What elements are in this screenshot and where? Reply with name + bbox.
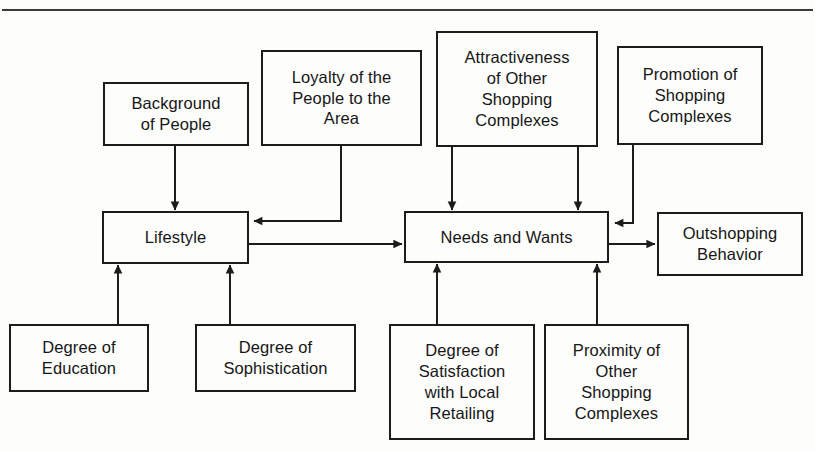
node-loyalty[interactable]: Loyalty of the People to the Area <box>261 50 422 146</box>
node-promotion[interactable]: Promotion of Shopping Complexes <box>617 46 763 145</box>
node-needs-and-wants-label: Needs and Wants <box>440 227 572 248</box>
node-background-of-people-label: Background of People <box>131 93 220 135</box>
node-loyalty-label: Loyalty of the People to the Area <box>292 67 392 129</box>
edge-promotion-to-needs <box>615 144 633 223</box>
edge-loyalty-to-lifestyle <box>254 145 341 221</box>
node-degree-of-satisfaction[interactable]: Degree of Satisfaction with Local Retail… <box>389 324 535 440</box>
node-degree-of-education[interactable]: Degree of Education <box>9 324 149 392</box>
node-lifestyle-label: Lifestyle <box>145 227 206 248</box>
node-promotion-label: Promotion of Shopping Complexes <box>643 64 738 126</box>
node-outshopping-behavior[interactable]: Outshopping Behavior <box>657 212 803 276</box>
node-lifestyle[interactable]: Lifestyle <box>102 211 249 264</box>
node-proximity[interactable]: Proximity of Other Shopping Complexes <box>544 324 689 440</box>
node-degree-of-sophistication-label: Degree of Sophistication <box>223 337 327 379</box>
diagram-canvas: Background of People Loyalty of the Peop… <box>0 0 815 452</box>
node-needs-and-wants[interactable]: Needs and Wants <box>404 211 609 263</box>
node-degree-of-sophistication[interactable]: Degree of Sophistication <box>195 324 356 392</box>
node-attractiveness[interactable]: Attractiveness of Other Shopping Complex… <box>436 31 598 147</box>
node-degree-of-satisfaction-label: Degree of Satisfaction with Local Retail… <box>419 340 506 423</box>
node-outshopping-behavior-label: Outshopping Behavior <box>683 223 778 265</box>
node-attractiveness-label: Attractiveness of Other Shopping Complex… <box>464 47 569 130</box>
node-background-of-people[interactable]: Background of People <box>103 82 249 146</box>
header-rule <box>2 9 813 11</box>
node-degree-of-education-label: Degree of Education <box>42 337 116 379</box>
node-proximity-label: Proximity of Other Shopping Complexes <box>573 340 660 423</box>
